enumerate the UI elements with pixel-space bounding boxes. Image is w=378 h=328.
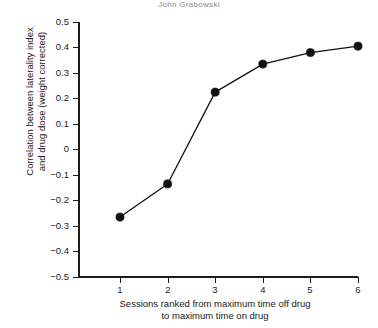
x-axis-title: Sessions ranked from maximum time off dr… bbox=[60, 298, 370, 321]
y-tick-label-2: 0.3 bbox=[56, 67, 69, 78]
data-point-5 bbox=[306, 49, 314, 57]
x-tick-label-3: 3 bbox=[212, 284, 217, 295]
line-chart-plot: 0.5 0.4 0.3 0.2 0.1 0 −0.1 −0.2 −0.3 −0.… bbox=[0, 0, 378, 328]
y-tick-label-10: −0.5 bbox=[50, 271, 69, 282]
x-tick-label-2: 2 bbox=[165, 284, 170, 295]
data-point-2 bbox=[164, 180, 172, 188]
data-point-1 bbox=[116, 213, 124, 221]
y-axis-tick-labels: 0.5 0.4 0.3 0.2 0.1 0 −0.1 −0.2 −0.3 −0.… bbox=[50, 16, 69, 282]
chart-figure: John Grabowski Correlation between later… bbox=[0, 0, 378, 328]
data-point-6 bbox=[354, 42, 362, 50]
y-tick-label-0: 0.5 bbox=[56, 16, 69, 27]
x-axis-ticks bbox=[120, 277, 358, 283]
y-axis-ticks bbox=[73, 22, 79, 277]
y-tick-label-4: 0.1 bbox=[56, 118, 69, 129]
x-tick-label-1: 1 bbox=[117, 284, 122, 295]
data-point-3 bbox=[211, 88, 219, 96]
y-tick-label-5: 0 bbox=[64, 143, 69, 154]
data-point-4 bbox=[259, 60, 267, 68]
y-tick-label-7: −0.2 bbox=[50, 194, 69, 205]
x-tick-label-4: 4 bbox=[260, 284, 265, 295]
y-tick-label-1: 0.4 bbox=[56, 41, 69, 52]
x-axis-tick-labels: 1 2 3 4 5 6 bbox=[117, 284, 360, 295]
x-tick-label-6: 6 bbox=[355, 284, 360, 295]
data-series-line bbox=[120, 46, 358, 217]
y-tick-label-3: 0.2 bbox=[56, 92, 69, 103]
y-tick-label-8: −0.3 bbox=[50, 220, 69, 231]
x-tick-label-5: 5 bbox=[307, 284, 312, 295]
axis-spine bbox=[79, 22, 358, 277]
y-tick-label-9: −0.4 bbox=[50, 245, 69, 256]
y-tick-label-6: −0.1 bbox=[50, 169, 69, 180]
